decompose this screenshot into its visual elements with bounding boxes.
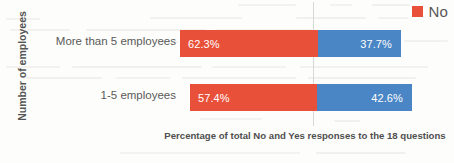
bar-value-no: 57.4% xyxy=(198,92,230,104)
chart-legend[interactable]: No xyxy=(412,4,448,19)
bar-value-yes: 37.7% xyxy=(360,38,392,50)
bar-segment-yes[interactable]: 42.6% xyxy=(317,84,412,111)
legend-label-no: No xyxy=(428,4,448,19)
bar-row: 62.3% 37.7% xyxy=(180,30,401,57)
category-label-1-5-employees: 1-5 employees xyxy=(101,89,176,101)
bar-segment-no[interactable]: 62.3% xyxy=(180,30,318,57)
stacked-bar-chart: No Number of employees More than 5 emplo… xyxy=(0,0,454,163)
bar-segment-yes[interactable]: 37.7% xyxy=(318,30,401,57)
y-axis-title: Number of employees xyxy=(16,6,28,126)
bar-value-no: 62.3% xyxy=(188,38,220,50)
legend-swatch-no-icon xyxy=(412,6,423,17)
bar-row: 57.4% 42.6% xyxy=(190,84,412,111)
bar-segment-no[interactable]: 57.4% xyxy=(190,84,317,111)
category-label-more-than-5-employees: More than 5 employees xyxy=(56,35,176,47)
bar-value-yes: 42.6% xyxy=(371,92,403,104)
x-axis-caption: Percentage of total No and Yes responses… xyxy=(160,130,450,141)
